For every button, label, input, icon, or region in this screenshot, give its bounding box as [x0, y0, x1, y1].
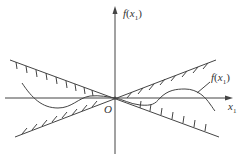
curve-label: f(x1) [211, 72, 230, 88]
origin-point [114, 97, 117, 100]
diagram-canvas [0, 0, 242, 159]
sector-bound-diagram: f(x1) f(x1) x1 O [0, 0, 242, 159]
origin-label: O [104, 104, 112, 115]
y-axis-arrow-icon [113, 6, 118, 14]
hatching-lower-right [140, 101, 206, 131]
curve-label-leader [197, 82, 210, 93]
hatching-lower-left [22, 101, 97, 134]
x-axis-label: x1 [228, 101, 236, 117]
y-axis-label: f(x1) [123, 8, 142, 24]
